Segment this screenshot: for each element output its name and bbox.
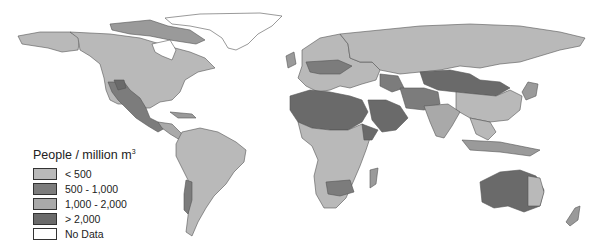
region-indonesia: [462, 140, 540, 156]
region-australia-east: [528, 176, 544, 206]
map-legend: People / million m3 < 500 500 - 1,000 1,…: [33, 148, 183, 241]
region-new-zealand: [566, 206, 580, 226]
legend-label: < 500: [65, 168, 92, 180]
legend-item-lt-500: < 500: [33, 166, 183, 181]
legend-label: > 2,000: [65, 213, 100, 225]
region-madagascar: [370, 168, 378, 188]
region-russia: [340, 24, 585, 74]
region-uk: [286, 52, 296, 68]
legend-swatch: [33, 198, 57, 210]
region-caribbean: [170, 112, 196, 118]
legend-item-gt-2000: > 2,000: [33, 211, 183, 226]
legend-swatch: [33, 168, 57, 180]
legend-label: 1,000 - 2,000: [65, 198, 127, 210]
region-alaska: [18, 32, 80, 52]
region-japan: [522, 82, 538, 100]
legend-item-500-1000: 500 - 1,000: [33, 181, 183, 196]
legend-item-no-data: No Data: [33, 226, 183, 241]
legend-swatch: [33, 228, 57, 240]
region-southern-africa: [326, 180, 354, 196]
legend-swatch: [33, 213, 57, 225]
legend-swatch: [33, 183, 57, 195]
region-india: [424, 104, 460, 138]
legend-label: No Data: [65, 228, 104, 240]
legend-title: People / million m3: [33, 148, 183, 162]
legend-item-1000-2000: 1,000 - 2,000: [33, 196, 183, 211]
region-arabia: [368, 100, 408, 132]
legend-label: 500 - 1,000: [65, 183, 118, 195]
region-horn-africa: [362, 124, 378, 140]
